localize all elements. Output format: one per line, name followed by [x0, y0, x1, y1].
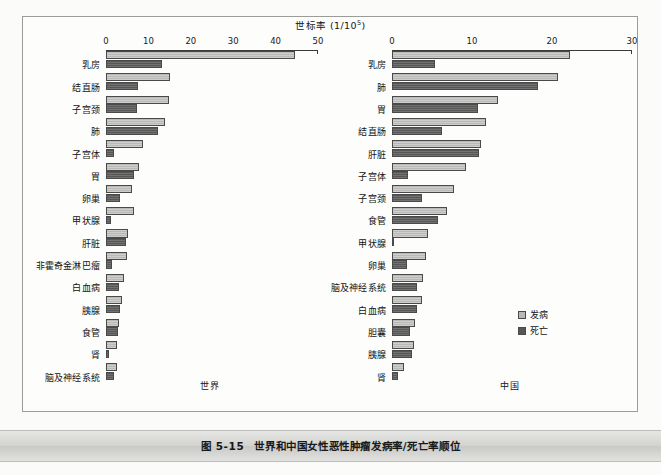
bar-mortality: [392, 82, 538, 90]
figure-caption-number: 图 5-15: [201, 440, 245, 452]
bar-mortality: [106, 82, 138, 90]
bar-group: [392, 229, 632, 246]
bar-mortality: [392, 104, 478, 112]
bar-incidence: [106, 96, 169, 104]
bar-mortality: [106, 171, 134, 179]
bar-incidence: [106, 118, 165, 126]
bar-mortality: [106, 327, 118, 335]
category-label: 甲状腺: [72, 214, 100, 227]
panel-caption-china: 中国: [500, 379, 519, 392]
bar-incidence: [392, 319, 415, 327]
bar-mortality: [106, 372, 114, 380]
bar-group: [106, 207, 318, 224]
plot-area-world: 01020304050乳房结直肠子宫颈肺子宫体胃卵巢甲状腺肝脏非霍奇金淋巴瘤白血…: [106, 50, 318, 362]
bar-mortality: [392, 238, 394, 246]
legend-swatch-incidence: [518, 311, 526, 319]
bar-group: [392, 319, 632, 336]
bar-group: [392, 341, 632, 358]
bar-incidence: [392, 274, 423, 282]
bar-group: [106, 363, 318, 380]
bar-incidence: [392, 229, 428, 237]
category-label: 子宫体: [72, 148, 100, 161]
chart-legend: 发病死亡: [518, 308, 548, 340]
bar-group: [106, 163, 318, 180]
bar-incidence: [392, 341, 414, 349]
bar-mortality: [106, 127, 158, 135]
figure-caption-title: 世界和中国女性恶性肿瘤发病率/死亡率顺位: [254, 440, 460, 452]
category-label: 肝脏: [82, 237, 100, 250]
category-label: 乳房: [82, 58, 100, 71]
legend-label-mortality: 死亡: [530, 324, 548, 337]
bar-mortality: [106, 238, 126, 246]
x-axis-tick-label: 20: [547, 36, 558, 46]
bar-incidence: [392, 118, 486, 126]
bar-incidence: [392, 73, 558, 81]
category-label: 脑及神经系统: [331, 281, 386, 294]
bar-mortality: [106, 149, 114, 157]
category-label: 子宫颈: [358, 192, 386, 205]
bar-group: [392, 73, 632, 90]
bar-group: [392, 118, 632, 135]
chart-panel-world: 01020304050乳房结直肠子宫颈肺子宫体胃卵巢甲状腺肝脏非霍奇金淋巴瘤白血…: [22, 34, 322, 396]
bar-incidence: [106, 319, 119, 327]
bar-group: [106, 185, 318, 202]
category-label: 胃: [377, 103, 386, 116]
bar-incidence: [106, 229, 128, 237]
bar-group: [106, 341, 318, 358]
bar-incidence: [106, 363, 117, 371]
bar-mortality: [392, 171, 408, 179]
category-label: 结直肠: [358, 125, 386, 138]
legend-item-mortality: 死亡: [518, 324, 548, 337]
bar-group: [392, 274, 632, 291]
bar-incidence: [392, 296, 422, 304]
bar-incidence: [392, 185, 454, 193]
bar-mortality: [106, 216, 111, 224]
bar-mortality: [392, 327, 410, 335]
bar-incidence: [392, 363, 404, 371]
bar-mortality: [392, 305, 417, 313]
bar-incidence: [106, 296, 122, 304]
bar-group: [392, 296, 632, 313]
x-axis-tick-label: 0: [103, 36, 108, 46]
bar-incidence: [106, 51, 295, 59]
bar-group: [392, 96, 632, 113]
bar-incidence: [106, 274, 124, 282]
bar-group: [106, 51, 318, 68]
category-label: 白血病: [72, 281, 100, 294]
category-label: 非霍奇金淋巴瘤: [36, 259, 100, 272]
bar-incidence: [106, 252, 127, 260]
bar-group: [106, 229, 318, 246]
figure-page: 世标率 (1/105) 01020304050乳房结直肠子宫颈肺子宫体胃卵巢甲状…: [0, 0, 661, 475]
x-axis-tick-label: 10: [467, 36, 478, 46]
plot-area-china: 0102030乳房肺胃结直肠肝脏子宫体子宫颈食管甲状腺卵巢脑及神经系统白血病胆囊…: [392, 50, 632, 362]
bar-group: [106, 274, 318, 291]
bar-mortality: [392, 149, 479, 157]
bar-group: [392, 207, 632, 224]
x-axis-tick-label: 0: [389, 36, 394, 46]
legend-swatch-mortality: [518, 327, 526, 335]
bar-mortality: [106, 305, 120, 313]
bar-incidence: [392, 163, 466, 171]
bar-mortality: [392, 283, 417, 291]
bar-mortality: [106, 60, 162, 68]
bar-group: [392, 163, 632, 180]
category-label: 肝脏: [368, 148, 386, 161]
category-label: 乳房: [368, 58, 386, 71]
x-axis-title-tail: ): [362, 20, 366, 31]
x-axis-title-text: 世标率 (1/10: [295, 20, 357, 31]
x-axis-title: 世标率 (1/105): [0, 18, 661, 32]
category-label: 胰腺: [82, 304, 100, 317]
bar-incidence: [106, 163, 139, 171]
bar-mortality: [392, 260, 407, 268]
category-label: 食管: [82, 326, 100, 339]
bar-mortality: [106, 194, 120, 202]
category-label: 脑及神经系统: [45, 371, 100, 384]
bar-mortality: [392, 127, 442, 135]
bar-mortality: [392, 350, 412, 358]
figure-caption: 图 5-15世界和中国女性恶性肿瘤发病率/死亡率顺位: [0, 431, 661, 461]
bar-mortality: [392, 60, 435, 68]
bar-group: [392, 51, 632, 68]
bar-mortality: [106, 260, 112, 268]
bar-incidence: [106, 207, 134, 215]
bar-mortality: [106, 350, 109, 358]
